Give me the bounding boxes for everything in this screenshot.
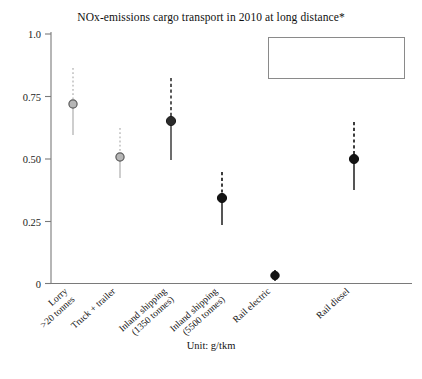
x-label-truck-trailer-line1: Truck + trailer xyxy=(69,285,118,331)
avg-marker-rail-electric[interactable] xyxy=(271,271,279,279)
avg-marker-rail-diesel[interactable] xyxy=(349,154,358,163)
x-axis-unit-label: Unit: g/tkm xyxy=(0,340,422,351)
data-point-group-inland-shipping-1350[interactable] xyxy=(166,78,175,160)
y-tick-label-0: 0 xyxy=(36,279,41,290)
x-label-rail-electric-line1: Rail electric xyxy=(230,285,272,324)
x-label-rail-diesel-line1: Rail diesel xyxy=(314,285,352,321)
data-point-group-inland-shipping-5500[interactable] xyxy=(217,172,226,225)
data-point-group-rail-electric[interactable] xyxy=(271,270,279,281)
y-axis-ticks xyxy=(45,34,51,284)
data-point-group-lorry[interactable] xyxy=(69,68,77,135)
chart-container: NOx-emissions cargo transport in 2010 at… xyxy=(0,0,422,379)
y-tick-label-0.75: 0.75 xyxy=(23,92,41,103)
avg-marker-lorry[interactable] xyxy=(69,100,77,108)
avg-marker-truck-trailer[interactable] xyxy=(116,153,124,161)
y-tick-label-0.25: 0.25 xyxy=(23,217,41,228)
data-point-group-rail-diesel[interactable] xyxy=(349,122,358,190)
x-axis-category-labels: Lorry >20 tonnes Truck + trailer Inland … xyxy=(30,285,351,343)
avg-marker-inland-shipping-5500[interactable] xyxy=(217,193,226,202)
y-tick-label-1.0: 1.0 xyxy=(28,29,41,40)
avg-marker-inland-shipping-1350[interactable] xyxy=(166,116,175,125)
y-tick-label-0.50: 0.50 xyxy=(23,154,41,165)
data-point-group-truck-trailer[interactable] xyxy=(116,128,124,178)
legend-border xyxy=(268,37,405,79)
